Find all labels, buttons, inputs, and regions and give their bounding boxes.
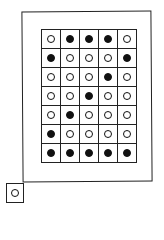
matrix-cell: [61, 106, 80, 125]
empty-dot-icon: [66, 92, 74, 100]
empty-dot-icon: [104, 130, 112, 138]
filled-dot-icon: [123, 149, 131, 157]
empty-dot-icon: [104, 54, 112, 62]
empty-dot-icon: [123, 73, 131, 81]
matrix-cell: [118, 144, 137, 163]
matrix-cell: [118, 106, 137, 125]
matrix-cell: [80, 68, 99, 87]
matrix-cell: [42, 49, 61, 68]
matrix-cell: [61, 144, 80, 163]
matrix-cell: [118, 87, 137, 106]
empty-dot-icon: [47, 111, 55, 119]
matrix-cell: [80, 106, 99, 125]
filled-dot-icon: [66, 35, 74, 43]
empty-dot-icon: [85, 73, 93, 81]
empty-dot-icon: [104, 92, 112, 100]
empty-dot-icon: [123, 130, 131, 138]
matrix-cell: [99, 144, 118, 163]
matrix-cell: [99, 49, 118, 68]
matrix-cell: [42, 68, 61, 87]
matrix-cell: [42, 87, 61, 106]
matrix-cell: [61, 125, 80, 144]
matrix-cell: [118, 125, 137, 144]
empty-dot-icon: [66, 73, 74, 81]
matrix-cell: [80, 87, 99, 106]
matrix-cell: [42, 144, 61, 163]
matrix-cell: [61, 68, 80, 87]
filled-dot-icon: [85, 92, 93, 100]
matrix-cell: [61, 49, 80, 68]
empty-dot-icon: [47, 92, 55, 100]
matrix-cell: [80, 125, 99, 144]
matrix-cell: [99, 68, 118, 87]
empty-dot-icon: [104, 111, 112, 119]
filled-dot-icon: [85, 149, 93, 157]
empty-dot-icon: [66, 54, 74, 62]
empty-dot-icon: [85, 54, 93, 62]
matrix-cell: [42, 106, 61, 125]
matrix-cell: [118, 68, 137, 87]
matrix-cell: [99, 30, 118, 49]
filled-dot-icon: [66, 149, 74, 157]
filled-dot-icon: [104, 35, 112, 43]
filled-dot-icon: [104, 149, 112, 157]
filled-dot-icon: [47, 130, 55, 138]
filled-dot-icon: [66, 111, 74, 119]
matrix-cell: [61, 30, 80, 49]
filled-dot-icon: [85, 35, 93, 43]
empty-dot-icon: [47, 35, 55, 43]
matrix-cell: [118, 49, 137, 68]
matrix-cell: [99, 125, 118, 144]
filled-dot-icon: [47, 149, 55, 157]
matrix-cell: [99, 106, 118, 125]
matrix-cell: [80, 30, 99, 49]
matrix-cell: [61, 87, 80, 106]
matrix-cell: [42, 125, 61, 144]
indicator-box: [6, 183, 24, 203]
empty-dot-icon: [123, 35, 131, 43]
empty-dot-icon: [85, 111, 93, 119]
empty-dot-icon: [85, 130, 93, 138]
matrix-cell: [42, 30, 61, 49]
empty-dot-icon: [47, 73, 55, 81]
matrix-cell: [118, 30, 137, 49]
empty-dot-icon: [123, 92, 131, 100]
matrix-cell: [99, 87, 118, 106]
filled-dot-icon: [123, 54, 131, 62]
empty-dot-icon: [123, 111, 131, 119]
filled-dot-icon: [47, 54, 55, 62]
empty-dot-icon: [66, 130, 74, 138]
dot-matrix-grid: [41, 29, 137, 163]
indicator-dot-icon: [11, 189, 19, 197]
matrix-cell: [80, 144, 99, 163]
matrix-cell: [80, 49, 99, 68]
filled-dot-icon: [104, 73, 112, 81]
